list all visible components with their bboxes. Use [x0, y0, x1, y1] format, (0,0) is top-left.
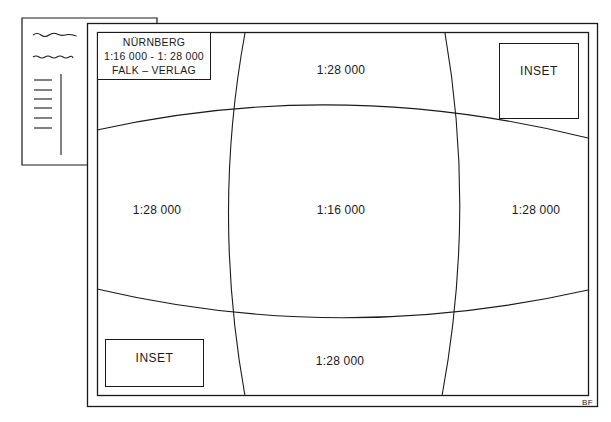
inset-bottom-left: INSET — [105, 339, 204, 387]
zone-label-bottom: 1:28 000 — [316, 354, 364, 368]
title-city: NÜRNBERG — [123, 35, 186, 49]
zone-label-left: 1:28 000 — [133, 203, 181, 217]
title-scale: 1:16 000 - 1: 28 000 — [104, 49, 204, 63]
credit-initials: BF — [582, 398, 593, 407]
zone-label-center: 1:16 000 — [317, 203, 365, 217]
zone-label-right: 1:28 000 — [512, 203, 560, 217]
inset-label: INSET — [136, 351, 174, 365]
map-title-box: NÜRNBERG 1:16 000 - 1: 28 000 FALK – VER… — [97, 32, 211, 80]
inset-top-right: INSET — [499, 43, 579, 119]
title-publisher: FALK – VERLAG — [112, 63, 196, 77]
zone-label-top: 1:28 000 — [317, 63, 365, 77]
inset-label: INSET — [520, 64, 558, 78]
